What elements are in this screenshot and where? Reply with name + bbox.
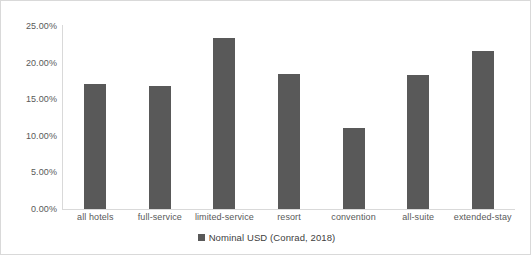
- bar-slot: [386, 26, 451, 209]
- x-axis-tick-label: extended-stay: [443, 212, 523, 222]
- bar[interactable]: [407, 75, 429, 209]
- bar[interactable]: [149, 86, 171, 209]
- x-axis-line: [62, 209, 515, 210]
- bar[interactable]: [278, 74, 300, 209]
- bar[interactable]: [472, 51, 494, 209]
- bar-slot: [257, 26, 322, 209]
- bar-slot: [450, 26, 515, 209]
- bar-chart: 0.00%5.00%10.00%15.00%20.00%25.00% all h…: [0, 0, 531, 255]
- legend-swatch-icon: [198, 234, 205, 241]
- legend-label: Nominal USD (Conrad, 2018): [209, 232, 336, 243]
- y-axis-tick-label: 15.00%: [5, 94, 57, 104]
- y-axis-tick-label: 0.00%: [5, 204, 57, 214]
- bar[interactable]: [343, 128, 365, 209]
- chart-legend: Nominal USD (Conrad, 2018): [1, 232, 531, 243]
- y-axis-tick-label: 20.00%: [5, 58, 57, 68]
- plot-area: [63, 26, 515, 209]
- bar-slot: [192, 26, 257, 209]
- x-axis: all hotelsfull-servicelimited-serviceres…: [63, 212, 515, 228]
- bar-slot: [63, 26, 128, 209]
- y-axis-tick-label: 10.00%: [5, 131, 57, 141]
- bar-slot: [128, 26, 193, 209]
- y-axis-tick-label: 25.00%: [5, 21, 57, 31]
- bar[interactable]: [213, 38, 235, 209]
- bar[interactable]: [84, 84, 106, 209]
- bar-slot: [321, 26, 386, 209]
- y-axis-tick-label: 5.00%: [5, 167, 57, 177]
- y-axis: 0.00%5.00%10.00%15.00%20.00%25.00%: [1, 26, 57, 209]
